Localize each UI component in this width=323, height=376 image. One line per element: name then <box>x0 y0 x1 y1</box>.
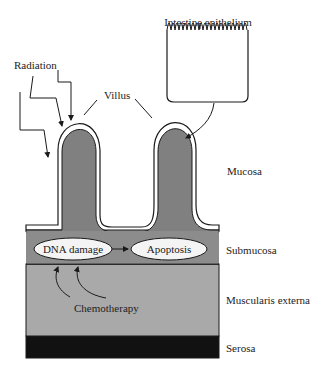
radiation-arrow-3 <box>58 70 71 120</box>
label-intestine-epithelium: Intestine epithelium <box>164 16 252 28</box>
label-submucosa: Submucosa <box>226 244 277 256</box>
villus-pointer-left <box>84 100 97 115</box>
label-radiation: Radiation <box>14 59 57 71</box>
radiation-arrow-1 <box>20 92 48 157</box>
serosa-layer <box>26 336 219 358</box>
label-villus: Villus <box>104 89 130 101</box>
label-apoptosis: Apoptosis <box>147 243 192 255</box>
villi-core <box>26 129 219 232</box>
label-serosa: Serosa <box>226 342 255 354</box>
epithelium-inset-box <box>167 30 248 102</box>
label-mucosa: Mucosa <box>227 165 262 177</box>
radiation-arrow-2 <box>30 76 62 126</box>
intestine-diagram: Intestine epithelium Radiation Villus Mu… <box>0 0 323 376</box>
label-chemotherapy: Chemotherapy <box>74 302 139 314</box>
villus-pointer-right <box>135 99 152 118</box>
label-dna-damage: DNA damage <box>43 243 103 255</box>
label-muscularis-externa: Muscularis externa <box>226 294 310 306</box>
muscularis-layer <box>26 264 219 336</box>
